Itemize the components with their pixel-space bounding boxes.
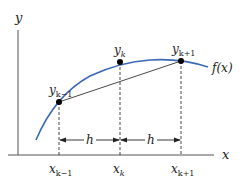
h-label-1: h: [86, 133, 94, 147]
label-y-k-plus-1: yk+1: [171, 42, 195, 58]
label-y-k: yk: [113, 43, 126, 59]
label-x-k: xk: [113, 162, 125, 178]
label-x-k-plus-1: xk+1: [171, 162, 194, 178]
y-axis-label: y: [14, 10, 23, 25]
label-y-k-minus-1: yk−1: [48, 83, 72, 99]
function-label: f(x): [211, 61, 233, 75]
h-label-2: h: [147, 133, 155, 147]
function-curve: [36, 60, 208, 140]
point-k: [117, 59, 123, 65]
point-k-minus-1: [56, 99, 62, 105]
x-axis-label: x: [222, 147, 230, 162]
finite-difference-diagram: y x f(x) yk−1 yk yk+1 h h xk−1 xk xk+1: [0, 0, 246, 183]
point-k-plus-1: [178, 58, 184, 64]
label-x-k-minus-1: xk−1: [49, 162, 72, 178]
